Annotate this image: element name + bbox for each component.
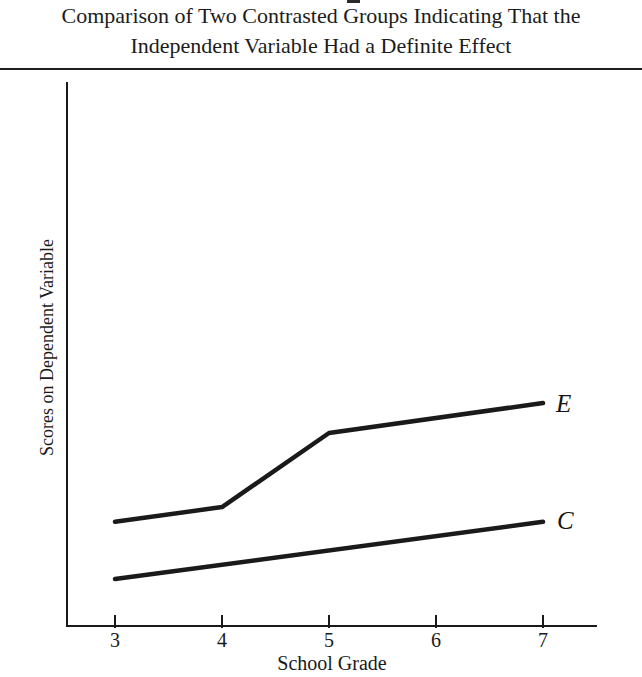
series-E-label: E bbox=[556, 391, 571, 416]
series-C-label: C bbox=[557, 508, 574, 533]
series-C-line bbox=[115, 522, 543, 579]
figure-page: Comparison of Two Contrasted Groups Indi… bbox=[0, 0, 642, 677]
series-E-line bbox=[115, 403, 543, 522]
plot-lines bbox=[0, 0, 642, 677]
